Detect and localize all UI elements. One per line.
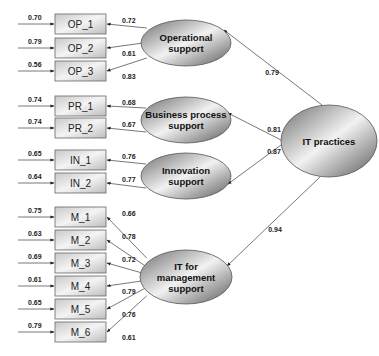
indicator-label: OP_1 <box>68 19 94 30</box>
loading-arrow <box>107 160 146 164</box>
error-value: 0.75 <box>28 207 42 214</box>
indicator-label: M_1 <box>71 212 91 223</box>
loading-value: 0.78 <box>122 233 136 240</box>
indicator-label: M_3 <box>71 258 91 269</box>
error-value: 0.65 <box>28 150 42 157</box>
error-value: 0.63 <box>28 230 42 237</box>
latent-pr-label: Business process <box>145 109 226 120</box>
indicator-label: IN_1 <box>70 155 92 166</box>
latent-m-label: IT for <box>174 261 198 272</box>
indicator-label: OP_2 <box>68 43 94 54</box>
loading-arrow <box>107 58 147 71</box>
latent-op-label: Operational <box>160 32 213 43</box>
loading-value: 0.77 <box>122 176 136 183</box>
latent-it-practices-label: IT practices <box>303 136 356 147</box>
loading-arrow <box>107 106 146 108</box>
error-value: 0.61 <box>28 276 42 283</box>
latent-in-label: support <box>168 176 204 187</box>
loading-arrow <box>107 281 143 286</box>
loading-arrow <box>107 183 146 188</box>
indicator-label: PR_1 <box>68 101 93 112</box>
indicator-label: M_5 <box>71 304 91 315</box>
error-value: 0.69 <box>28 253 42 260</box>
indicator-label: M_4 <box>71 281 91 292</box>
loading-value: 0.72 <box>122 17 136 24</box>
loading-arrow <box>107 263 143 273</box>
loading-itp-pr: 0.81 <box>267 126 281 133</box>
loading-value: 0.79 <box>122 288 136 295</box>
error-value: 0.64 <box>28 173 42 180</box>
latent-pr-label: support <box>168 120 204 131</box>
loading-value: 0.76 <box>122 311 136 318</box>
error-value: 0.56 <box>28 61 42 68</box>
loading-value: 0.67 <box>122 121 136 128</box>
loading-value: 0.76 <box>122 153 136 160</box>
indicator-label: PR_2 <box>68 123 93 134</box>
indicator-label: M_2 <box>71 235 91 246</box>
indicator-label: IN_2 <box>70 178 92 189</box>
latent-m-label: management <box>157 272 216 283</box>
error-value: 0.79 <box>28 322 42 329</box>
loading-value: 0.72 <box>122 256 136 263</box>
error-value: 0.79 <box>28 38 42 45</box>
loading-value: 0.83 <box>122 73 136 80</box>
path-itp-to-m <box>227 177 320 266</box>
loading-value: 0.61 <box>122 334 136 341</box>
path-itp-to-op <box>224 30 322 105</box>
error-value: 0.65 <box>28 299 42 306</box>
indicator-label: M_6 <box>71 327 91 338</box>
error-value: 0.74 <box>28 96 42 103</box>
loading-value: 0.66 <box>122 210 136 217</box>
error-value: 0.74 <box>28 118 42 125</box>
loading-itp-op: 0.79 <box>265 69 279 76</box>
loading-value: 0.68 <box>122 99 136 106</box>
latent-op-label: support <box>168 43 204 54</box>
nodes-layer <box>55 14 377 342</box>
indicator-label: OP_3 <box>68 66 94 77</box>
loading-itp-m: 0.94 <box>268 226 282 233</box>
error-value: 0.70 <box>28 14 42 21</box>
loading-value: 0.61 <box>122 50 136 57</box>
latent-m-label: support <box>168 283 204 294</box>
sem-diagram: IT practicesOperationalsupport0.79OP_10.… <box>0 0 379 356</box>
loading-arrow <box>107 43 143 48</box>
loading-arrow <box>107 128 146 132</box>
loading-itp-in: 0.87 <box>267 148 281 155</box>
latent-in-label: Innovation <box>162 165 210 176</box>
loading-arrow <box>107 24 147 28</box>
